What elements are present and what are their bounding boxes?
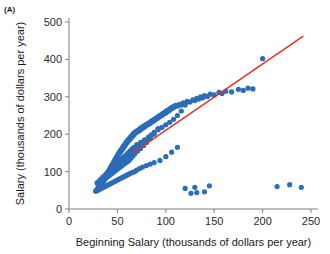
x-tick-label: 250: [302, 215, 320, 227]
data-point: [245, 86, 250, 91]
data-point: [236, 87, 241, 92]
x-tick-label: 0: [66, 215, 72, 227]
data-points-layer: [93, 56, 304, 196]
y-tick-label: 500: [44, 16, 62, 28]
trendline-segment: [133, 36, 303, 153]
regression-line: [133, 36, 303, 153]
x-axis-title: Beginning Salary (thousands of dollars p…: [76, 236, 311, 248]
data-point: [175, 113, 180, 118]
figure-panel-a: (A) 050100150200250 0100200300400500 Beg…: [0, 0, 330, 254]
data-point: [169, 150, 174, 155]
data-point: [241, 88, 246, 93]
y-tick-label: 400: [44, 53, 62, 65]
data-point: [202, 189, 207, 194]
data-point: [183, 102, 188, 107]
data-point: [287, 182, 292, 187]
y-axis-ticks: 0100200300400500: [44, 16, 69, 215]
y-tick-label: 200: [44, 128, 62, 140]
data-point: [183, 186, 188, 191]
data-point: [207, 183, 212, 188]
data-point: [188, 191, 193, 196]
data-point: [152, 160, 157, 165]
x-tick-label: 150: [205, 215, 223, 227]
data-point: [155, 126, 160, 131]
scatter-plot: 050100150200250 0100200300400500 Beginni…: [0, 0, 330, 254]
data-point: [194, 190, 199, 195]
data-point: [152, 132, 157, 137]
data-point: [299, 185, 304, 190]
x-tick-label: 200: [253, 215, 271, 227]
y-tick-label: 300: [44, 91, 62, 103]
data-point: [179, 108, 184, 113]
data-point: [192, 185, 197, 190]
x-axis-ticks: 050100150200250: [66, 209, 320, 227]
y-tick-label: 0: [56, 203, 62, 215]
y-tick-label: 100: [44, 166, 62, 178]
data-point: [229, 89, 234, 94]
data-point: [157, 158, 162, 163]
x-tick-label: 50: [111, 215, 123, 227]
x-tick-label: 100: [157, 215, 175, 227]
data-point: [175, 145, 180, 150]
y-axis-title: Salary (thousands of dollars per year): [14, 22, 26, 205]
data-point: [171, 117, 176, 122]
data-point: [275, 184, 280, 189]
data-point: [163, 154, 168, 159]
data-point: [260, 56, 265, 61]
data-point: [250, 86, 255, 91]
